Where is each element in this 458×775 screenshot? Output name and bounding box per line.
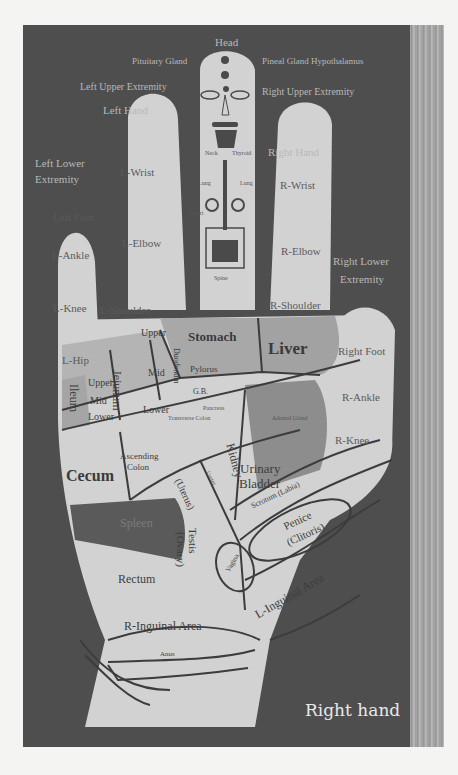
label-spleen: Spleen (120, 517, 153, 529)
label-stomach: Stomach (188, 330, 236, 343)
label-right-lower-extremity-1: Right Lower (333, 256, 389, 267)
label-cecum: Cecum (66, 468, 114, 484)
label-mid-2: Mid (90, 396, 107, 406)
label-left-upper-extremity: Left Upper Extremity (80, 82, 167, 92)
label-upper-1: Upper (141, 328, 166, 338)
label-lower-2: Lower (88, 412, 114, 422)
label-l-wrist: L-Wrist (120, 167, 154, 178)
label-pylorus: Pylorus (190, 365, 218, 374)
label-pancreas: Pancreas (203, 405, 224, 411)
label-left-hand: Left Hand (103, 105, 148, 116)
label-spine: Spine (214, 275, 228, 281)
label-heart: Heart (190, 210, 203, 216)
label-anus: Anus (160, 651, 175, 658)
label-neck: Neck (205, 150, 218, 156)
label-urinary-bladder-2: Bladder (239, 477, 280, 490)
label-left-lower-extremity-2: Extremity (35, 174, 79, 185)
label-ascending-colon-2: Colon (127, 463, 149, 472)
label-r-shoulder: R-Shoulder (270, 300, 321, 311)
label-pineal: Pineal Gland Hypothalamus (262, 57, 363, 66)
label-ileum: Ileum (68, 384, 80, 412)
label-mid-1: Mid (148, 368, 165, 378)
label-transverse-colon: Transverse Colon (168, 415, 210, 421)
label-l-ankle: L-Ankle (52, 250, 89, 261)
label-liver: Liver (268, 340, 308, 357)
label-ascending-colon-1: Ascending (120, 452, 159, 461)
label-r-inguinal-area: R-Inguinal Area (124, 620, 202, 632)
label-r-elbow: R-Elbow (281, 246, 321, 257)
label-right-foot: Right Foot (338, 346, 385, 357)
label-left-lower-extremity-1: Left Lower (35, 158, 85, 169)
label-r-ankle: R-Ankle (342, 392, 380, 403)
label-lung-left: Lung (198, 180, 211, 186)
label-l-elbow: L-Elbow (122, 238, 161, 249)
label-r-knee: R-Knee (335, 435, 369, 446)
label-rectum: Rectum (118, 573, 155, 585)
label-lung-right: Lung (240, 180, 253, 186)
label-ovary: (Ovary) (175, 532, 186, 567)
label-right-hand: Right Hand (268, 147, 319, 158)
label-thyroid: Thyroid (232, 150, 251, 156)
label-left-foot: Left Foot (53, 212, 94, 223)
label-lower-1: Lower (143, 405, 169, 415)
label-right-upper-extremity: Right Upper Extremity (262, 87, 354, 97)
label-pituitary: Pituitary Gland (132, 57, 187, 66)
label-l-hip: L-Hip (62, 355, 89, 366)
label-testis: Testis (187, 528, 198, 554)
label-jejunum: Jejunum (111, 370, 123, 411)
label-duodenum: Duodenum (172, 348, 180, 384)
label-right-lower-extremity-2: Extremity (340, 274, 384, 285)
label-r-wrist: R-Wrist (280, 180, 315, 191)
label-gb: G.B. (193, 388, 208, 396)
figure-caption: Right hand (305, 700, 400, 720)
label-urinary-bladder-1: Urinary (240, 462, 280, 475)
label-adrenal-gland: Adrenal Gland (272, 415, 308, 421)
label-l-knee: L-Knee (53, 303, 87, 314)
label-l-shoulder: L-Shoulder (100, 305, 150, 316)
label-head: Head (215, 37, 238, 48)
